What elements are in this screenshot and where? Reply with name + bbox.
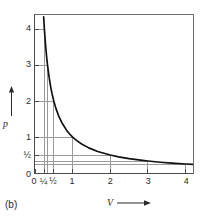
x-axis-arrow-icon [117, 198, 151, 208]
x-axis-tick-label: 2 [108, 177, 113, 186]
x-axis-tick-label: 3 [146, 177, 151, 186]
figure-panel: 0½1234 0¼½1234 p V (b) [0, 0, 203, 220]
x-axis-title: V [107, 197, 113, 208]
x-axis-tick-label: 4 [184, 177, 189, 186]
x-axis-tick-labels: 0¼½1234 [0, 0, 203, 220]
x-axis-tick-label: ¼ [40, 177, 48, 186]
x-axis-tick-label: ½ [49, 177, 57, 186]
y-axis-arrow-icon [7, 86, 16, 116]
x-axis-tick-label: 0 [31, 177, 36, 186]
panel-label: (b) [5, 199, 17, 210]
x-axis-tick-label: 1 [70, 177, 75, 186]
y-axis-title: p [3, 118, 8, 129]
